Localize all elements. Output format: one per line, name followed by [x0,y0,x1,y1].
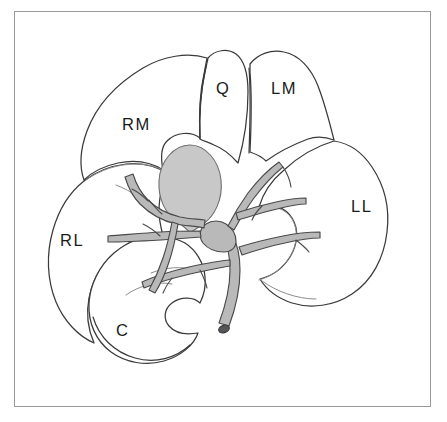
lobe-label-quadrate: Q [216,79,230,98]
lobe-label-caudate: C [116,321,130,340]
lobe-label-left-medial: LM [271,79,297,98]
lobe-label-right-lateral: RL [60,231,84,250]
lobe-label-right-medial: RM [122,115,151,134]
liver-diagram-figure: RM Q LM LL RL C [0,0,447,422]
lobe-label-left-lateral: LL [351,197,373,216]
